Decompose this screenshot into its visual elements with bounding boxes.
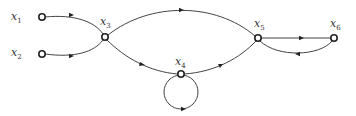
arrow-self-loop-x4 [181,107,186,112]
arrow-x3-x5 [179,8,184,13]
label-x6: x6 [330,17,341,32]
node-x3 [102,34,108,40]
node-x2 [39,51,45,57]
edge-x1-x3 [45,16,103,34]
signal-flow-graph: x1 x2 x3 x4 x5 x6 [0,0,356,116]
label-x3: x3 [100,15,111,30]
arrow-x6-x5 [295,52,300,57]
edge-x2-x3 [45,40,103,55]
node-x4 [178,71,184,77]
node-x5 [255,35,261,41]
edge-x6-x5 [260,41,332,53]
label-x1: x1 [11,10,22,25]
label-x5: x5 [254,17,265,32]
label-x4: x4 [175,55,186,70]
edge-x3-x5 [108,10,255,36]
label-x2: x2 [11,46,22,61]
edge-x4-x5 [184,41,256,74]
self-loop-x4 [164,75,198,109]
node-x1 [39,14,45,20]
arrow-x1-x3 [69,13,74,18]
arrow-x5-x6 [299,36,304,41]
edge-x3-x4 [107,40,178,74]
node-x6 [331,35,337,41]
